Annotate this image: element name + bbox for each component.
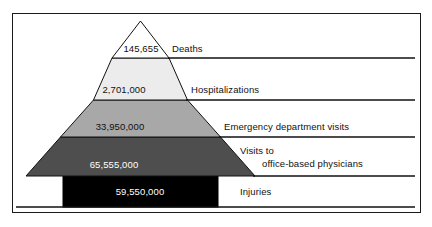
tier-value-injuries: 59,550,000 <box>116 186 165 197</box>
pyramid-tier-office-based-physician-visits <box>26 137 255 176</box>
tier-label-deaths: Deaths <box>172 43 203 54</box>
tier-value-hospitalizations: 2,701,000 <box>102 84 145 95</box>
tier-label-office-based-physician-visits: Visits to office-based physicians <box>240 145 363 169</box>
pyramid-graphic <box>0 0 432 227</box>
injury-pyramid-figure: 145,655 2,701,000 33,950,000 65,555,000 … <box>0 0 432 227</box>
tier-value-emergency-department-visits: 33,950,000 <box>96 121 145 132</box>
tier-value-office-based-physician-visits: 65,555,000 <box>90 159 139 170</box>
tier-label-line-2: office-based physicians <box>240 158 363 169</box>
tier-label-injuries: Injuries <box>240 186 271 197</box>
tier-value-deaths: 145,655 <box>123 43 158 54</box>
tier-label-line-1: Visits to <box>240 145 274 156</box>
tier-label-emergency-department-visits: Emergency department visits <box>224 121 349 132</box>
tier-label-hospitalizations: Hospitalizations <box>191 84 259 95</box>
